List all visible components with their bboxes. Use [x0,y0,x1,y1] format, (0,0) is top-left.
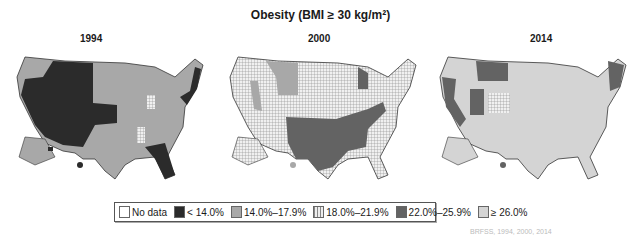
year-label-2000: 2000 [308,33,330,44]
map-2014 [428,47,638,187]
legend-label: < 14.0% [187,207,224,218]
map-2000 [218,47,428,187]
legend: No data < 14.0% 14.0%–17.9% 18.0%–21.9% … [114,202,436,222]
legend-swatch [478,206,489,218]
legend-item-18-21: 18.0%–21.9% [313,206,388,218]
legend-item-22-25: 22.0%–25.9% [396,206,471,218]
legend-item-14-17: 14.0%–17.9% [231,206,306,218]
legend-swatch [313,206,324,218]
legend-label: ≥ 26.0% [491,207,528,218]
legend-item-gte26: ≥ 26.0% [478,206,528,218]
chart-title: Obesity (BMI ≥ 30 kg/m²) [0,8,641,22]
year-label-1994: 1994 [80,33,102,44]
legend-label: 22.0%–25.9% [409,207,471,218]
legend-label: 18.0%–21.9% [326,207,388,218]
legend-item-lt14: < 14.0% [174,206,224,218]
legend-item-no-data: No data [119,206,167,218]
legend-swatch [396,206,407,218]
map-1994 [5,47,215,187]
legend-label: 14.0%–17.9% [244,207,306,218]
legend-swatch [231,206,242,218]
legend-swatch [174,206,185,218]
legend-label: No data [132,207,167,218]
legend-swatch [119,206,130,218]
year-label-2014: 2014 [530,33,552,44]
source-caption: BRFSS, 1994, 2000, 2014 [470,228,552,235]
